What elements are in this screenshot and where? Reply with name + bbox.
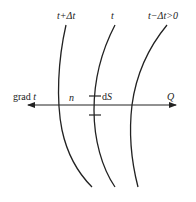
isotherm-diagram: t+Δt t t−Δt>0 grad t n dS Q [0,0,196,202]
isotherm-curve-plus [59,25,92,187]
label-dS: dS [102,92,112,102]
ds-s: S [107,91,112,102]
label-t-plus-dt: t+Δt [57,11,75,21]
label-t: t [111,11,114,21]
label-t-minus-dt: t−Δt>0 [148,11,178,21]
grad-var: t [33,91,36,102]
isotherm-curve-minus [131,25,167,187]
label-grad-t: grad t [13,92,36,102]
label-Q: Q [167,92,174,102]
label-n: n [69,93,74,103]
grad-text: grad [13,91,33,102]
isotherm-curve-mid [94,25,115,187]
